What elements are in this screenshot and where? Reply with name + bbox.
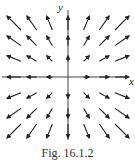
field-arrow: [27, 36, 37, 46]
field-arrow: [47, 124, 53, 138]
field-arrow: [99, 93, 109, 99]
field-arrow: [84, 16, 90, 30]
field-arrow: [115, 108, 129, 118]
field-arrow: [27, 108, 37, 118]
field-arrow: [84, 93, 90, 99]
field-arrow: [99, 56, 109, 62]
field-arrow: [84, 124, 90, 138]
field-arrow: [115, 56, 129, 62]
field-arrow: [7, 93, 21, 99]
field-arrow: [27, 56, 37, 62]
field-arrow: [99, 124, 109, 138]
field-arrow: [99, 16, 109, 30]
field-arrow: [84, 36, 90, 46]
field-arrow: [47, 16, 53, 30]
field-arrow: [84, 56, 90, 62]
field-arrow: [115, 124, 129, 138]
y-axis-label: y: [57, 1, 63, 13]
field-arrow: [7, 108, 21, 118]
field-arrow: [115, 36, 129, 46]
field-arrow: [7, 36, 21, 46]
field-arrow: [115, 16, 129, 30]
field-arrow: [84, 108, 90, 118]
field-arrow: [27, 16, 37, 30]
field-arrow: [99, 108, 109, 118]
field-arrow: [47, 36, 53, 46]
field-arrow: [7, 124, 21, 138]
field-arrow: [47, 56, 53, 62]
field-arrow: [27, 124, 37, 138]
field-arrow: [7, 16, 21, 30]
vector-field-diagram: y x: [0, 0, 135, 160]
field-arrow: [27, 93, 37, 99]
field-arrow: [115, 93, 129, 99]
field-arrow: [47, 108, 53, 118]
field-arrow: [47, 93, 53, 99]
field-arrow: [7, 56, 21, 62]
field-arrow: [99, 36, 109, 46]
figure-caption: Fig. 16.1.2: [0, 146, 135, 160]
